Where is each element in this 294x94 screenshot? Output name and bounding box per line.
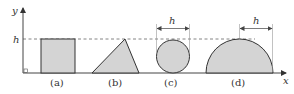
label-d: (d) xyxy=(231,77,245,88)
origin-right-angle-mark xyxy=(24,69,28,73)
shape-d-semicircle xyxy=(206,39,273,73)
shape-b-triangle xyxy=(92,39,139,73)
label-a: (a) xyxy=(50,77,64,88)
shape-a-square xyxy=(41,39,75,73)
figure: y h x (a) (b) h (c) h (d) xyxy=(0,0,294,94)
shape-c-circle xyxy=(157,40,190,73)
label-b: (b) xyxy=(108,77,122,88)
dim-d-label: h xyxy=(253,15,259,26)
x-axis-label: x xyxy=(283,75,289,86)
y-axis-label: y xyxy=(11,5,18,16)
h-tick-label: h xyxy=(13,34,19,45)
dim-c-label: h xyxy=(169,15,175,26)
label-c: (c) xyxy=(164,77,178,88)
